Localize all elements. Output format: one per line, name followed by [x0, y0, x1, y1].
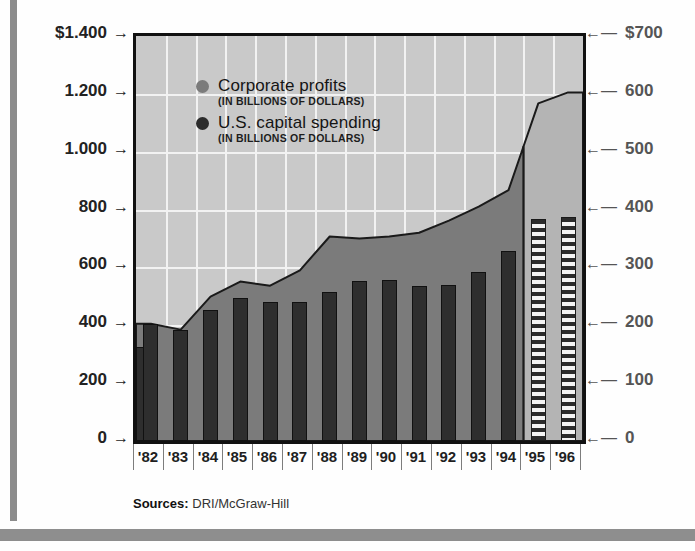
sources-note: Sources: DRI/McGraw-Hill: [133, 496, 289, 511]
left-axis-tick-label: 200: [79, 370, 107, 389]
arrow-left-icon: ←—: [585, 24, 617, 42]
x-axis-label-y91: '91: [401, 444, 431, 470]
arrow-right-icon: →: [113, 82, 129, 100]
legend-item-capital-spending: U.S. capital spending (IN BILLIONS OF DO…: [196, 113, 476, 144]
left-axis-tick-label: $1.400: [55, 23, 107, 42]
arrow-left-icon: ←—: [585, 140, 617, 158]
x-axis-label-y94: '94: [491, 444, 521, 470]
x-axis-label-y84: '84: [193, 444, 223, 470]
left-axis-tick-800: 800→: [79, 197, 129, 217]
right-axis-tick-label: 400: [625, 197, 653, 216]
legend-unit-capital-spending: (IN BILLIONS OF DOLLARS): [218, 132, 476, 144]
x-axis-label-y93: '93: [461, 444, 491, 470]
legend-item-corporate-profits: Corporate profits (IN BILLIONS OF DOLLAR…: [196, 76, 476, 107]
sources-label: Sources:: [133, 496, 189, 511]
right-axis-tick-label: 100: [625, 370, 653, 389]
right-axis-tick-0: ←—0: [585, 428, 634, 448]
chart-legend: Corporate profits (IN BILLIONS OF DOLLAR…: [196, 76, 476, 146]
arrow-left-icon: ←—: [585, 198, 617, 216]
bar-capital-spending-y96: [561, 217, 576, 441]
arrow-right-icon: →: [113, 371, 129, 389]
bottom-white-strip: [0, 541, 695, 551]
left-axis-tick-label: 600: [79, 254, 107, 273]
left-axis-tick-1200: 1.200→: [64, 81, 129, 101]
bar-capital-spending-y82: [143, 324, 158, 441]
bar-capital-spending-y85: [233, 298, 248, 441]
left-axis-tick-0: 0→: [98, 428, 129, 448]
x-axis-label-y95: '95: [520, 444, 550, 470]
arrow-left-icon: ←—: [585, 255, 617, 273]
left-axis-tick-600: 600→: [79, 254, 129, 274]
arrow-left-icon: ←—: [585, 82, 617, 100]
right-axis: ←—$700←—600←—500←—400←—300←—200←—100←—0: [583, 0, 695, 551]
right-axis-tick-600: ←—600: [585, 81, 653, 101]
arrow-right-icon: →: [113, 24, 129, 42]
right-axis-tick-label: 0: [625, 428, 634, 447]
bar-capital-spending-y87: [292, 302, 307, 441]
legend-dot-dark-icon: [196, 117, 209, 130]
bar-capital-spending-y83: [173, 330, 188, 441]
arrow-right-icon: →: [113, 313, 129, 331]
left-axis-tick-label: 800: [79, 197, 107, 216]
arrow-right-icon: →: [113, 198, 129, 216]
bar-capital-spending-y90: [382, 280, 397, 441]
left-axis-tick-label: 0: [98, 428, 107, 447]
arrow-left-icon: ←—: [585, 371, 617, 389]
arrow-left-icon: ←—: [585, 429, 617, 447]
bar-capital-spending-y93: [471, 272, 486, 441]
x-axis-label-y82: '82: [133, 444, 163, 470]
legend-label-corporate-profits: Corporate profits: [218, 76, 346, 96]
right-axis-tick-500: ←—500: [585, 139, 653, 159]
right-axis-tick-400: ←—400: [585, 197, 653, 217]
right-axis-tick-100: ←—100: [585, 370, 653, 390]
left-axis-tick-label: 1.000: [64, 139, 107, 158]
right-axis-tick-300: ←—300: [585, 254, 653, 274]
legend-dot-gray-icon: [196, 80, 209, 93]
arrow-right-icon: →: [113, 140, 129, 158]
right-axis-tick-label: 200: [625, 312, 653, 331]
bar-capital-spending-y89: [352, 281, 367, 441]
left-axis-tick-1000: 1.000→: [64, 139, 129, 159]
right-axis-tick-label: 600: [625, 81, 653, 100]
bar-capital-spending-y95: [531, 219, 546, 441]
x-axis-label-y86: '86: [252, 444, 282, 470]
right-axis-tick-label: 500: [625, 139, 653, 158]
left-axis-tick-label: 400: [79, 312, 107, 331]
arrow-right-icon: →: [113, 255, 129, 273]
x-axis-label-y89: '89: [342, 444, 372, 470]
left-axis-tick-1400: $1.400→: [55, 23, 129, 43]
left-axis-tick-label: 1.200: [64, 81, 107, 100]
left-axis-tick-200: 200→: [79, 370, 129, 390]
bar-capital-spending-y88: [322, 292, 337, 441]
right-axis-tick-700: ←—$700: [585, 23, 663, 43]
legend-unit-corporate-profits: (IN BILLIONS OF DOLLARS): [218, 95, 476, 107]
x-axis-tick-separator: [580, 444, 581, 470]
bar-capital-spending-y84: [203, 310, 218, 441]
x-axis-label-y83: '83: [163, 444, 193, 470]
left-axis: $1.400→1.200→1.000→800→600→400→200→0→: [0, 0, 133, 551]
right-axis-tick-label: 300: [625, 254, 653, 273]
x-axis-label-y90: '90: [371, 444, 401, 470]
arrow-right-icon: →: [113, 429, 129, 447]
bar-capital-spending-y86: [263, 302, 278, 441]
x-axis-label-y92: '92: [431, 444, 461, 470]
x-axis-label-y96: '96: [550, 444, 580, 470]
x-axis-label-y85: '85: [222, 444, 252, 470]
bar-capital-spending-y91: [412, 286, 427, 441]
bar-capital-spending-y92: [441, 285, 456, 442]
legend-label-capital-spending: U.S. capital spending: [218, 113, 381, 133]
sources-value: DRI/McGraw-Hill: [189, 496, 289, 511]
arrow-left-icon: ←—: [585, 313, 617, 331]
chart-figure: $1.400→1.200→1.000→800→600→400→200→0→ ←—…: [0, 0, 695, 551]
bottom-border-rule: [0, 529, 695, 541]
right-axis-tick-200: ←—200: [585, 312, 653, 332]
x-axis-label-y88: '88: [312, 444, 342, 470]
left-axis-tick-400: 400→: [79, 312, 129, 332]
x-axis-label-y87: '87: [282, 444, 312, 470]
x-axis: '82'83'84'85'86'87'88'89'90'91'92'93'94'…: [133, 444, 586, 470]
right-axis-tick-label: $700: [625, 23, 663, 42]
bar-capital-spending-y94: [501, 251, 516, 441]
